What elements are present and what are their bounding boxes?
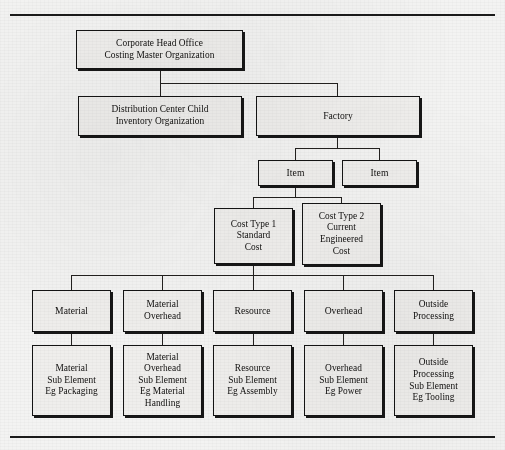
node-material-overhead-sub-element[interactable]: Material Overhead Sub Element Eg Materia… (123, 345, 202, 416)
connector-n5-to-n8 (162, 275, 163, 290)
connector-n5-to-n10 (343, 275, 344, 290)
connector-n5-to-n11 (433, 275, 434, 290)
node-label: Material Overhead (144, 299, 181, 322)
node-outside-processing[interactable]: Outside Processing (394, 290, 473, 332)
node-cost-type-2[interactable]: Cost Type 2 Current Engineered Cost (302, 203, 381, 265)
connector-n3-stem (295, 186, 296, 197)
node-overhead[interactable]: Overhead (304, 290, 383, 332)
connector-n0-bus (160, 83, 338, 84)
node-item-2[interactable]: Item (342, 160, 417, 186)
node-cost-type-1[interactable]: Cost Type 1 Standard Cost (214, 208, 293, 264)
node-label: Factory (323, 110, 353, 122)
connector-n10-to-n15 (343, 332, 344, 345)
node-material-overhead[interactable]: Material Overhead (123, 290, 202, 332)
connector-n7-to-n12 (71, 332, 72, 345)
top-rule (10, 14, 495, 16)
connector-n11-to-n16 (433, 332, 434, 345)
node-label: Material Overhead Sub Element Eg Materia… (138, 352, 187, 410)
node-label: Item (371, 167, 389, 179)
org-hierarchy-diagram: Corporate Head Office Costing Master Org… (0, 0, 505, 450)
node-label: Cost Type 2 Current Engineered Cost (319, 211, 365, 257)
node-label: Resource Sub Element Eg Assembly (227, 363, 277, 398)
node-factory[interactable]: Factory (256, 96, 420, 136)
node-label: Material Sub Element Eg Packaging (45, 363, 97, 398)
connector-n5-stem (253, 264, 254, 275)
node-item-1[interactable]: Item (258, 160, 333, 186)
connector-n8-to-n13 (162, 332, 163, 345)
node-resource[interactable]: Resource (213, 290, 292, 332)
node-distribution-center[interactable]: Distribution Center Child Inventory Orga… (78, 96, 242, 136)
node-overhead-sub-element[interactable]: Overhead Sub Element Eg Power (304, 345, 383, 416)
connector-n5-bus (71, 275, 433, 276)
node-material-sub-element[interactable]: Material Sub Element Eg Packaging (32, 345, 111, 416)
bottom-rule (10, 436, 495, 438)
connector-n0-to-n2 (337, 83, 338, 96)
node-resource-sub-element[interactable]: Resource Sub Element Eg Assembly (213, 345, 292, 416)
node-label: Distribution Center Child Inventory Orga… (111, 104, 208, 127)
connector-n5-to-n7 (71, 275, 72, 290)
connector-n2-to-n4 (379, 148, 380, 160)
node-label: Overhead Sub Element Eg Power (319, 363, 368, 398)
connector-n3-bus (253, 197, 341, 198)
connector-n0-to-n1 (160, 83, 161, 96)
node-label: Item (287, 167, 305, 179)
node-label: Material (55, 305, 88, 317)
connector-n3-to-n5 (253, 197, 254, 208)
connector-n2-bus (295, 148, 379, 149)
node-label: Overhead (325, 305, 363, 317)
node-label: Outside Processing (413, 299, 454, 322)
connector-n0-stem (160, 69, 161, 83)
node-label: Resource (234, 305, 270, 317)
node-corporate-head-office[interactable]: Corporate Head Office Costing Master Org… (76, 30, 243, 69)
connector-n9-to-n14 (253, 332, 254, 345)
node-outside-processing-sub-element[interactable]: Outside Processing Sub Element Eg Toolin… (394, 345, 473, 416)
node-label: Corporate Head Office Costing Master Org… (104, 38, 214, 61)
connector-n5-to-n9 (253, 275, 254, 290)
connector-n2-to-n3 (295, 148, 296, 160)
node-material[interactable]: Material (32, 290, 111, 332)
connector-n2-stem (337, 136, 338, 148)
node-label: Cost Type 1 Standard Cost (231, 219, 277, 254)
node-label: Outside Processing Sub Element Eg Toolin… (409, 357, 458, 403)
